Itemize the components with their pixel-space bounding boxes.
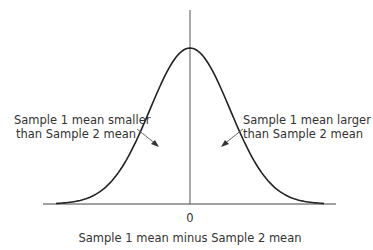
right-annotation-line2: than Sample 2 mean bbox=[243, 127, 361, 141]
chart-root: Sample 1 mean smaller than Sample 2 mean… bbox=[0, 0, 373, 250]
x-axis-label: Sample 1 mean minus Sample 2 mean bbox=[60, 231, 320, 245]
left-annotation-line2: than Sample 2 mean bbox=[14, 127, 138, 141]
left-annotation-line1: Sample 1 mean smaller bbox=[14, 113, 138, 127]
right-arrow bbox=[221, 129, 243, 147]
right-annotation: Sample 1 mean larger than Sample 2 mean bbox=[243, 113, 361, 141]
left-annotation: Sample 1 mean smaller than Sample 2 mean bbox=[14, 113, 138, 141]
x-tick-zero: 0 bbox=[180, 211, 200, 225]
right-annotation-line1: Sample 1 mean larger bbox=[243, 113, 361, 127]
left-arrow bbox=[137, 129, 159, 147]
